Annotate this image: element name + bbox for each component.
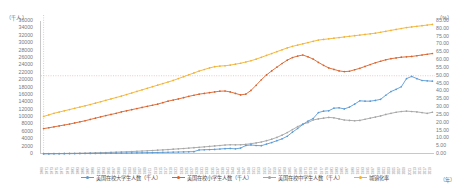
series-point [203, 93, 205, 95]
series-point [136, 150, 138, 152]
series-point [89, 119, 91, 121]
series-point [328, 117, 330, 119]
series-point [110, 152, 112, 154]
series-point [400, 86, 402, 88]
series-point [349, 120, 351, 122]
series-point [375, 62, 377, 64]
series-point [198, 93, 200, 95]
legend-item[interactable]: 城镇化率 [354, 174, 389, 181]
series-point [411, 56, 413, 58]
series-point [286, 135, 288, 137]
series-point [421, 80, 423, 82]
series-point [146, 105, 148, 107]
right-axis-tick: 70.00 [436, 41, 449, 46]
series-point [323, 117, 325, 119]
series-point [276, 137, 278, 139]
legend-item[interactable]: 美国在校大学生人数（千人） [81, 174, 161, 181]
series-point [105, 115, 107, 117]
series-point [162, 149, 164, 151]
series-line [44, 24, 433, 116]
series-point [318, 39, 320, 41]
series-point [69, 123, 71, 125]
series-point [126, 94, 128, 96]
series-point [395, 111, 397, 113]
series-point [307, 56, 309, 58]
series-point [115, 152, 117, 154]
series-point [416, 25, 418, 27]
series-point [178, 98, 180, 100]
legend-marker-icon [263, 175, 276, 180]
series-point [411, 26, 413, 28]
series-point [354, 69, 356, 71]
series-point [162, 152, 164, 154]
left-axis-tick: 22000 [2, 70, 33, 75]
legend-marker-icon [172, 175, 185, 180]
series-point [95, 153, 97, 155]
series-point [338, 37, 340, 39]
series-point [136, 91, 138, 93]
series-point [359, 120, 361, 122]
series-point [302, 43, 304, 45]
series-point [214, 66, 216, 68]
left-axis-tick: 34000 [2, 25, 33, 30]
series-point [421, 25, 423, 27]
series-point [152, 104, 154, 106]
legend-item[interactable]: 美国在校中学生人数（千人） [263, 174, 343, 181]
series-point [178, 151, 180, 153]
series-point [136, 108, 138, 110]
series-point [364, 100, 366, 102]
legend-label: 美国在校小学生人数（千人） [187, 174, 252, 181]
series-point [74, 107, 76, 109]
series-point [229, 144, 231, 146]
series-point [369, 33, 371, 35]
series-point [286, 132, 288, 134]
series-point [198, 146, 200, 148]
series-point [58, 111, 60, 113]
legend-item[interactable]: 美国在校小学生人数（千人） [172, 174, 252, 181]
series-point [136, 152, 138, 154]
series-point [297, 128, 299, 130]
series-point [162, 102, 164, 104]
series-point [380, 31, 382, 33]
series-point [74, 122, 76, 124]
series-point [390, 91, 392, 93]
series-point [240, 94, 242, 96]
series-point [178, 148, 180, 150]
series-point [328, 110, 330, 112]
series-point [183, 97, 185, 99]
series-point [183, 76, 185, 78]
series-point [43, 128, 45, 130]
series-point [167, 100, 169, 102]
series-point [100, 116, 102, 118]
series-point [354, 103, 356, 105]
series-point [281, 63, 283, 65]
series-point [193, 94, 195, 96]
series-point [432, 24, 434, 26]
series-point [141, 150, 143, 152]
series-point [172, 80, 174, 82]
series-point [188, 147, 190, 149]
series-point [188, 74, 190, 76]
series-point [48, 127, 50, 129]
series-point [198, 70, 200, 72]
series-point [152, 152, 154, 154]
series-point [53, 126, 55, 128]
series-point [203, 149, 205, 151]
left-axis-tick: 16000 [2, 92, 33, 97]
series-point [126, 110, 128, 112]
series-point [395, 89, 397, 91]
series-point [229, 91, 231, 93]
series-point [281, 134, 283, 136]
series-point [53, 112, 55, 114]
series-point [349, 106, 351, 108]
series-point [198, 149, 200, 151]
series-point [432, 53, 434, 55]
series-point [406, 78, 408, 80]
series-point [292, 129, 294, 131]
series-point [349, 70, 351, 72]
left-axis-tick: 18000 [2, 85, 33, 90]
series-point [224, 65, 226, 67]
series-point [323, 110, 325, 112]
left-axis-tick: 24000 [2, 62, 33, 67]
series-point [349, 35, 351, 37]
